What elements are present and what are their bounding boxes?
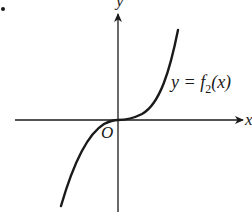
origin-label: O	[101, 123, 113, 143]
function-curve	[61, 30, 178, 206]
curve-label: y = f2(x)	[171, 72, 231, 97]
function-graph	[0, 0, 252, 214]
curve-label-suffix: (x)	[211, 72, 231, 92]
curve-label-prefix: y = f	[171, 72, 205, 92]
x-axis-label: x	[245, 110, 252, 130]
y-axis-label: y	[116, 0, 124, 11]
